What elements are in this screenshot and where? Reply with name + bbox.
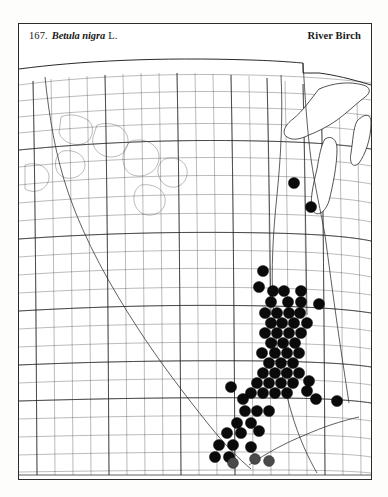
occurrence-dot <box>331 395 342 406</box>
occurrence-dot <box>257 387 268 398</box>
occurrence-dot <box>275 377 286 388</box>
occurrence-dot <box>293 347 304 358</box>
occurrence-dot <box>293 367 304 378</box>
occurrence-dot <box>263 405 274 416</box>
occurrence-dot <box>259 307 270 318</box>
occurrence-dot <box>289 337 300 348</box>
map-canvas <box>19 55 371 479</box>
occurrence-dot <box>265 337 276 348</box>
distribution-map <box>19 55 371 479</box>
occurrence-dot <box>239 405 250 416</box>
occurrence-dot <box>257 367 268 378</box>
occurrence-dot <box>288 177 299 188</box>
occurrence-dot <box>235 427 246 438</box>
occurrence-dot <box>251 405 262 416</box>
occurrence-dot <box>259 327 270 338</box>
occurrence-dot <box>228 458 239 469</box>
occurrence-dot <box>213 439 224 450</box>
occurrence-dot <box>271 307 282 318</box>
occurrence-dot <box>278 285 289 296</box>
occurrence-dot <box>250 454 261 465</box>
occurrence-dot <box>283 327 294 338</box>
occurrence-dot <box>231 417 242 428</box>
occurrence-dot <box>301 385 312 396</box>
occurrence-dot <box>263 357 274 368</box>
occurrence-dot <box>295 285 306 296</box>
occurrence-dot <box>313 298 324 309</box>
occurrence-dot <box>295 296 306 307</box>
occurrence-dot <box>256 347 267 358</box>
occurrence-dot <box>283 307 294 318</box>
county-boundaries <box>19 73 371 475</box>
occurrence-dot <box>263 377 274 388</box>
occurrence-dot <box>269 387 280 398</box>
occurrence-dot <box>265 317 276 328</box>
occurrence-dot <box>281 367 292 378</box>
occurrence-dot <box>288 317 299 328</box>
occurrence-dot <box>257 265 268 276</box>
occurrence-dot <box>301 317 312 328</box>
occurrence-dot <box>275 357 286 368</box>
occurrence-dot <box>281 387 292 398</box>
occurrence-dot <box>225 381 236 392</box>
occurrence-dot <box>303 375 314 386</box>
occurrence-dot <box>310 393 321 404</box>
occurrence-dot <box>271 327 282 338</box>
occurrence-dot <box>267 285 278 296</box>
occurrence-dot <box>265 296 276 307</box>
occurrence-dot <box>221 427 232 438</box>
occurrence-dot <box>209 451 220 462</box>
occurrence-dot <box>253 425 264 436</box>
occurrence-dot <box>294 307 305 318</box>
occurrence-dot <box>251 377 262 388</box>
occurrence-dot <box>253 281 264 292</box>
occurrence-dot <box>281 347 292 358</box>
occurrence-dot <box>282 296 293 307</box>
occurrence-dot <box>277 337 288 348</box>
occurrence-dot <box>305 201 316 212</box>
occurrence-dot <box>264 456 275 467</box>
occurrence-dot <box>237 393 248 404</box>
occurrence-dot <box>287 377 298 388</box>
occurrence-dot <box>287 357 298 368</box>
occurrence-dot <box>269 347 280 358</box>
occurrence-dot <box>276 317 287 328</box>
occurrence-dot <box>269 367 280 378</box>
page-root: 167.Betula nigraL. River Birch <box>0 0 388 497</box>
occurrence-dot <box>227 439 238 450</box>
occurrence-dot <box>245 441 256 452</box>
occurrence-dot <box>295 327 306 338</box>
